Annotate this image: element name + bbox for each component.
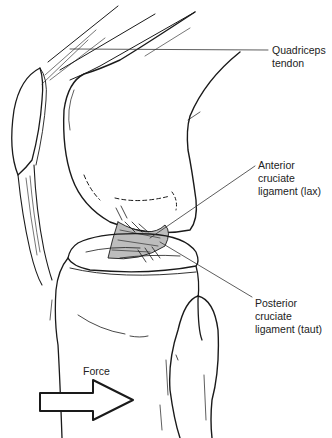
quadriceps-tendon-drawing	[42, 6, 195, 84]
fibula-drawing	[160, 296, 218, 438]
femur-drawing	[64, 12, 240, 233]
knee-diagram: Quadriceps tendon Anterior cruciate liga…	[0, 0, 332, 438]
label-leader-lines	[70, 49, 268, 297]
anterior-cruciate-ligament-label: Anterior cruciate ligament (lax)	[258, 159, 321, 198]
patellar-tendon-drawing	[18, 165, 52, 285]
arrow-right-icon	[40, 380, 133, 420]
posterior-cruciate-ligament-label: Posterior cruciate ligament (taut)	[255, 297, 322, 336]
quadriceps-tendon-label: Quadriceps tendon	[272, 44, 326, 70]
force-label: Force	[83, 365, 110, 378]
quadriceps-leader-line	[70, 49, 268, 50]
acl-leader-line	[150, 166, 255, 238]
patella-drawing	[12, 68, 47, 175]
